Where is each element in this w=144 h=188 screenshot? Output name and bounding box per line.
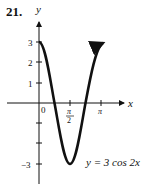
x-tick-label-pi-over-2-num: π xyxy=(67,107,72,116)
x-tick-label-0: 0 xyxy=(41,105,46,115)
y-tick-label-neg3: −3 xyxy=(21,160,31,170)
x-tick-label-pi-over-2-den: 2 xyxy=(67,116,71,125)
y-axis-label: y xyxy=(35,3,41,15)
y-tick-label-3: 3 xyxy=(28,38,33,48)
cosine-graph: x y 3 2 1 −3 0 π 2 π y = 3 cos 2x xyxy=(0,0,144,188)
y-tick-label-1: 1 xyxy=(28,79,33,89)
y-tick-label-2: 2 xyxy=(28,58,33,68)
x-tick-label-pi: π xyxy=(98,107,103,116)
x-axis-label: x xyxy=(127,97,133,109)
equation-label: y = 3 cos 2x xyxy=(85,156,140,168)
